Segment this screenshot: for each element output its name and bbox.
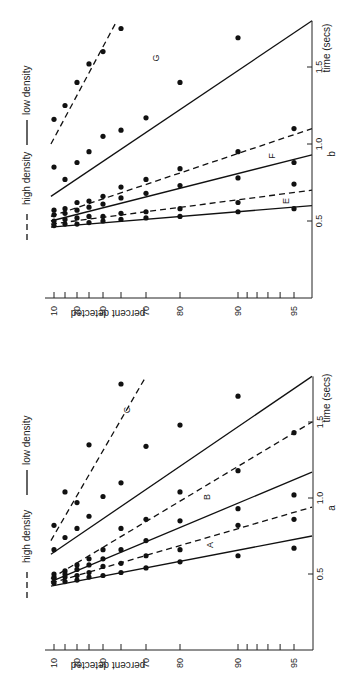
panel-b-series-e-solid-point — [51, 223, 56, 228]
panel-b-series-g-dashed-point — [62, 103, 67, 108]
panel-a-series-b-solid-point — [118, 547, 123, 552]
panel-b-series-f-dashed-point — [143, 177, 148, 182]
panel-a-series-b-solid-point — [86, 562, 91, 567]
panel-a-series-c-label: C — [122, 406, 132, 413]
panel-a-series-a-dashed-point — [86, 570, 91, 575]
panel-b: GFE 103050708090950.51.01.5 percent dete… — [21, 21, 337, 319]
panel-a-x-tick-label: 80 — [175, 658, 185, 668]
panel-a-series-c-dashed-point — [118, 381, 123, 386]
panel-b-series-g-solid-point — [143, 115, 148, 120]
panel-b-marks: GFE — [51, 21, 312, 228]
panel-b-series-f-solid-point — [291, 160, 296, 165]
panel-b-series-e-solid-point — [118, 217, 123, 222]
panel-a-series-c-dashed-point — [86, 442, 91, 447]
panel-a-series-a-solid-point — [177, 559, 182, 564]
panel-b-series-e-solid-point — [62, 221, 67, 226]
legend-low-label: low density — [21, 66, 32, 115]
panel-b-y-tick-label: 0.5 — [314, 215, 324, 228]
panel-a-series-a-dashed-point — [74, 573, 79, 578]
panel-b-series-f-solid-point — [51, 212, 56, 217]
panel-a-series-b-solid-point — [143, 538, 148, 543]
panel-a-series-b-dashed-point — [235, 468, 240, 473]
panel-a-series-b-solid-point — [100, 556, 105, 561]
panel-a-series-a-dashed-point — [143, 553, 148, 558]
panel-b-series-e-label: E — [281, 198, 291, 204]
panel-b-series-g-solid-point — [235, 35, 240, 40]
panel-a-series-b-dashed-point — [100, 547, 105, 552]
panel-b-series-f-solid-point — [100, 201, 105, 206]
panel-b-series-f-dashed-point — [291, 126, 296, 131]
panel-a-series-c-dashed-line — [51, 376, 146, 540]
panel-a-series-a-dashed-point — [118, 561, 123, 566]
panel-a-series-a-dashed-point — [177, 547, 182, 552]
panel-a-series-c-dashed-point — [62, 489, 67, 494]
panel-b-series-e-solid-point — [86, 220, 91, 225]
panel-a-series-b-dashed-point — [291, 430, 296, 435]
panel-b-series-f-solid-point — [74, 208, 79, 213]
panel-a-series-a-solid-point — [235, 553, 240, 558]
panel-b-series-e-solid-point — [235, 209, 240, 214]
panel-a-series-b-dashed-point — [177, 489, 182, 494]
panel-b-series-e-dashed-point — [51, 218, 56, 223]
panel-b-title: b — [326, 151, 337, 157]
panel-b-series-f-solid-point — [86, 205, 91, 210]
panel-b-ylabel: time (secs) — [321, 24, 332, 73]
panel-a-marks: CBA — [51, 376, 312, 586]
panel-a-series-a-dashed-point — [291, 517, 296, 522]
panel-a-x-tick-label: 95 — [289, 658, 299, 668]
panel-b-series-g-label: G — [151, 54, 161, 61]
panel-b-series-g-dashed-point — [51, 117, 56, 122]
panel-b-series-g-solid-point — [100, 134, 105, 139]
panel-a-series-b-solid-point — [235, 506, 240, 511]
panel-b-series-f-dashed-point — [51, 208, 56, 213]
panel-b-series-f-solid-point — [118, 195, 123, 200]
panel-a-x-tick-label: 90 — [233, 658, 243, 668]
panel-a-legend: high density low density — [21, 416, 32, 598]
panel-a-series-c-solid-point — [74, 526, 79, 531]
legend-high-label: high density — [21, 152, 32, 205]
panel-a-series-b-solid-point — [74, 567, 79, 572]
panel-b-series-f-label: F — [267, 153, 277, 159]
panel-a-series-a-solid-point — [51, 581, 56, 586]
panel-a-series-c-solid-point — [62, 535, 67, 540]
panel-b-series-e-solid-point — [74, 221, 79, 226]
panel-a-series-c-solid-point — [51, 547, 56, 552]
panel-a-series-c-solid-point — [100, 494, 105, 499]
panel-b-series-g-dashed-point — [74, 80, 79, 85]
panel-a-series-a-solid-point — [74, 577, 79, 582]
panel-b-series-g-solid-point — [86, 149, 91, 154]
panel-a-series-a-solid-point — [100, 573, 105, 578]
panel-a-axes: 103050708090950.51.01.5 — [45, 376, 325, 668]
panel-a-series-c-solid-point — [86, 514, 91, 519]
panel-a-series-c-solid-point — [118, 480, 123, 485]
panel-b-series-e-dashed-point — [74, 215, 79, 220]
panel-b-series-f-dashed-point — [86, 198, 91, 203]
panel-a-series-a-label: A — [205, 542, 215, 548]
panel-a-series-b-dashed-point — [118, 526, 123, 531]
panel-a-series-b-dashed-point — [86, 556, 91, 561]
panel-b-series-e-dashed-point — [86, 214, 91, 219]
panel-b-series-e-solid-point — [177, 214, 182, 219]
panel-a-series-b-label: B — [202, 494, 212, 500]
panel-a-series-a-solid-point — [291, 546, 296, 551]
panel-b-series-f-solid-point — [235, 175, 240, 180]
panel-a-series-a-dashed-point — [62, 574, 67, 579]
panel-a-ylabel: time (secs) — [321, 374, 332, 423]
panel-b-series-g-solid-point — [62, 177, 67, 182]
panel-b-x-tick-label: 80 — [175, 306, 185, 316]
panel-b-series-e-dashed-point — [177, 206, 182, 211]
panel-a-series-a-solid-point — [143, 565, 148, 570]
panel-b-series-e-dashed-point — [118, 211, 123, 216]
panel-b-series-g-solid-point — [51, 165, 56, 170]
panel-b-series-e-dashed-point — [143, 209, 148, 214]
panel-a-series-b-solid-point — [177, 518, 182, 523]
panel-b-series-f-solid-point — [177, 183, 182, 188]
panel-b-series-f-solid-point — [62, 211, 67, 216]
panel-b-series-f-dashed-point — [235, 149, 240, 154]
panel-a-y-tick-label: 0.5 — [315, 568, 325, 581]
panel-b-series-g-dashed-line — [51, 21, 117, 144]
panel-b-y-tick-label: 1.0 — [314, 138, 324, 151]
panel-b-series-e-dashed-point — [235, 200, 240, 205]
panel-b-series-f-dashed-point — [118, 185, 123, 190]
panel-a-series-c-solid-point — [235, 394, 240, 399]
